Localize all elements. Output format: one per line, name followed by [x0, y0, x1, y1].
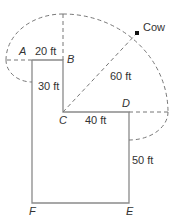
measure-rope: 60 ft — [110, 70, 131, 82]
point-label-e: E — [126, 205, 134, 217]
measure-cd: 40 ft — [85, 114, 106, 126]
measure-de: 50 ft — [132, 154, 153, 166]
point-label-d: D — [122, 97, 130, 109]
tether-diagram: A B C D E F Cow 20 ft 30 ft 40 ft 50 ft … — [0, 0, 174, 222]
measure-bc: 30 ft — [38, 80, 59, 92]
point-label-a: A — [18, 45, 26, 57]
point-label-f: F — [29, 205, 37, 217]
point-label-b: B — [67, 53, 74, 65]
measure-ab: 20 ft — [35, 45, 56, 57]
cow-label: Cow — [143, 21, 165, 33]
cow-marker — [135, 31, 139, 35]
arc-right — [129, 112, 168, 140]
arc-left-bottom — [6, 60, 32, 82]
point-label-c: C — [59, 114, 67, 126]
